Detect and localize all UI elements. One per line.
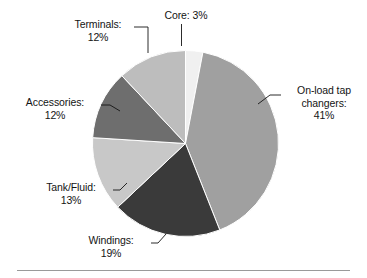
- slice-label-tap-changers-line1: On-load tap: [284, 84, 364, 97]
- slice-label-tap-changers-line2: changers:: [284, 97, 364, 110]
- slice-label-core: Core: 3%: [148, 9, 224, 22]
- slice-label-accessories: Accessories: 12%: [8, 96, 102, 121]
- slice-label-terminals: Terminals: 12%: [56, 18, 140, 43]
- slice-label-accessories-line1: Accessories:: [8, 96, 102, 109]
- pie-slice-group: [93, 50, 279, 236]
- slice-label-accessories-line2: 12%: [8, 109, 102, 122]
- slice-label-windings: Windings: 19%: [68, 234, 154, 259]
- slice-label-windings-line2: 19%: [68, 247, 154, 260]
- slice-label-tap-changers-line3: 41%: [284, 109, 364, 122]
- slice-label-terminals-line1: Terminals:: [56, 18, 140, 31]
- footer-divider: [17, 270, 350, 271]
- pie-chart-figure: Core: 3% Terminals: 12% On-load tap chan…: [0, 0, 367, 278]
- slice-label-tank-fluid-line1: Tank/Fluid:: [26, 181, 116, 194]
- slice-label-windings-line1: Windings:: [68, 234, 154, 247]
- slice-label-tap-changers: On-load tap changers: 41%: [284, 84, 364, 122]
- slice-label-tank-fluid-line2: 13%: [26, 194, 116, 207]
- slice-label-tank-fluid: Tank/Fluid: 13%: [26, 181, 116, 206]
- slice-label-terminals-line2: 12%: [56, 31, 140, 44]
- slice-label-core-line1: Core: 3%: [148, 9, 224, 22]
